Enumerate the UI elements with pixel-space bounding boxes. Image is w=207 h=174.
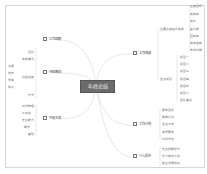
node-kpi-4[interactable]: 客户数 bbox=[190, 27, 199, 31]
node-completion[interactable]: 完成情况 bbox=[22, 57, 34, 61]
node-other[interactable]: 其他 bbox=[28, 132, 34, 136]
topic-icon bbox=[43, 37, 47, 41]
node-kpi-group[interactable]: 主要业绩指标完成 bbox=[160, 27, 184, 31]
node-growth-1[interactable]: 专业技能提升 bbox=[162, 147, 180, 151]
node-project-5[interactable]: 项目五 bbox=[180, 84, 189, 88]
node-project-4[interactable]: 项目四 bbox=[180, 77, 189, 81]
node-method[interactable]: 方法 bbox=[28, 93, 34, 97]
node-kpi-7[interactable]: 市场份额 bbox=[190, 48, 202, 52]
node-time[interactable]: 时间管理 bbox=[22, 104, 34, 108]
node-kpi-3[interactable]: 增长 bbox=[190, 19, 196, 23]
node-project-group[interactable]: 重点项目 bbox=[160, 77, 172, 81]
node-kpi-5[interactable]: 回款率 bbox=[190, 34, 199, 38]
topic-icon bbox=[133, 122, 137, 126]
node-kpi-1[interactable]: 业绩目标 bbox=[190, 4, 202, 8]
node-planning[interactable]: 计划性 bbox=[22, 111, 31, 115]
node-plan-5[interactable]: 时间节点 bbox=[162, 137, 174, 141]
node-team[interactable]: 团队建设 bbox=[180, 98, 192, 102]
branch-review[interactable]: 工作回顾 bbox=[43, 37, 61, 42]
topic-icon bbox=[133, 154, 137, 158]
node-project-6[interactable]: 项目六 bbox=[180, 91, 189, 95]
node-project-1[interactable]: 项目一 bbox=[180, 55, 189, 59]
node-plan-1[interactable]: 明年目标 bbox=[162, 108, 174, 112]
node-plan-3[interactable]: 重点工作 bbox=[162, 122, 174, 126]
topic-icon bbox=[133, 51, 137, 55]
node-kpi-2[interactable]: 完成率 bbox=[190, 12, 199, 16]
central-topic[interactable]: 年终总结 bbox=[80, 80, 115, 93]
node-execution[interactable]: 执行 bbox=[8, 85, 14, 89]
node-growth-2[interactable]: 学习培训计划 bbox=[162, 154, 180, 158]
node-communication[interactable]: 沟通 bbox=[8, 64, 14, 68]
branch-growth[interactable]: 个人提升 bbox=[133, 154, 151, 159]
node-efficiency[interactable]: 效率 bbox=[8, 78, 14, 82]
node-goal[interactable]: 目标 bbox=[28, 50, 34, 54]
topic-icon bbox=[43, 116, 47, 120]
node-cooperation[interactable]: 协作 bbox=[8, 71, 14, 75]
node-detail[interactable]: 细节 bbox=[24, 125, 30, 129]
node-summary[interactable]: 经验总结 bbox=[22, 75, 34, 79]
topic-icon bbox=[43, 70, 47, 74]
branch-lessons[interactable]: 经验教训 bbox=[43, 70, 61, 75]
branch-plan[interactable]: 工作计划 bbox=[133, 122, 151, 127]
branch-achievements[interactable]: 工作成果 bbox=[133, 51, 151, 56]
branch-shortcomings[interactable]: 不足之处 bbox=[43, 116, 61, 121]
node-skill[interactable]: 专业能力 bbox=[22, 118, 34, 122]
node-project-2[interactable]: 项目二 bbox=[180, 62, 189, 66]
node-project-3[interactable]: 项目三 bbox=[180, 69, 189, 73]
node-growth-3[interactable]: 职业发展规划 bbox=[162, 161, 180, 165]
node-plan-4[interactable]: 资源需求 bbox=[162, 130, 174, 134]
node-plan-2[interactable]: 季度计划 bbox=[162, 115, 174, 119]
node-kpi-6[interactable]: 成本控制 bbox=[190, 41, 202, 45]
